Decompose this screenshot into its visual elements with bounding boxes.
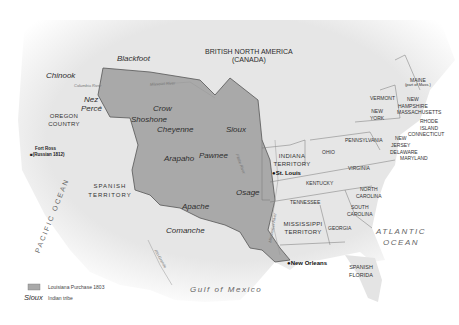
atlantic-line1: ATLANTIC: [376, 228, 426, 236]
label-georgia: GEORGIA: [328, 226, 351, 231]
tribe-crow: Crow: [153, 105, 172, 113]
louisiana-purchase-map: BRITISH NORTH AMERICA (CANADA) OREGON CO…: [0, 0, 459, 325]
city-new-orleans: ●New Orleans: [287, 260, 327, 266]
british-name: BRITISH NORTH AMERICA: [205, 48, 293, 55]
tribe-shoshone: Shoshone: [131, 116, 167, 124]
tribe-arapaho: Arapaho: [164, 155, 194, 163]
label-massachusetts: MASSACHUSETTS: [397, 110, 441, 115]
label-vermont: VERMONT: [370, 96, 395, 101]
british-sub: (CANADA): [205, 56, 293, 63]
tribe-sioux: Sioux: [226, 126, 246, 134]
label-oregon-country: OREGON COUNTRY: [46, 112, 82, 129]
label-gulf-of-mexico: Gulf of Mexico: [190, 286, 262, 294]
city-st-louis: ●St. Louis: [272, 170, 301, 176]
fort-ross-sub: ■(Russian 1812): [30, 153, 64, 158]
label-maryland: MARYLAND: [400, 156, 428, 161]
tribe-nez: Nez: [84, 96, 98, 104]
label-fort-ross: Fort Ross ■(Russian 1812): [30, 147, 64, 157]
label-new-hampshire: NEW HAMPSHIRE: [398, 96, 428, 109]
tribe-pawnee: Pawnee: [199, 152, 228, 160]
tribe-osage: Osage: [236, 189, 260, 197]
legend-tribe-sample: Sioux: [24, 294, 43, 302]
label-spanish-territory: SPANISH TERRITORY: [86, 182, 134, 200]
label-kentucky: KENTUCKY: [306, 181, 333, 186]
label-atlantic-ocean: ATLANTIC OCEAN: [376, 228, 426, 247]
label-rhode-island: RHODE ISLAND: [420, 118, 438, 131]
river-columbia: Columbia River: [74, 84, 101, 88]
tribe-apache: Apache: [182, 203, 209, 211]
label-ohio: OHIO: [322, 150, 335, 155]
atlantic-line2: OCEAN: [376, 239, 426, 247]
label-connecticut: CONNECTICUT: [408, 132, 444, 137]
tribe-cheyenne: Cheyenne: [157, 126, 193, 134]
label-spanish-florida: SPANISH FLORIDA: [346, 264, 376, 279]
legend-purchase-label: Louisiana Purchase 1803: [48, 285, 104, 290]
label-indiana-territory: INDIANA TERRITORY: [272, 152, 312, 169]
label-south-carolina: SOUTH CAROLINA: [347, 204, 373, 217]
label-new-york: NEW YORK: [370, 108, 384, 121]
label-tennessee: TENNESSEE: [290, 200, 320, 205]
legend-swatch-purchase: [28, 284, 40, 290]
tribe-chinook: Chinook: [46, 72, 75, 80]
label-new-jersey: NEW JERSEY: [391, 135, 410, 148]
label-north-carolina: NORTH CAROLINA: [356, 186, 382, 199]
label-virginia: VIRGINIA: [348, 166, 370, 171]
label-pennsylvania: PENNSYLVANIA: [345, 138, 383, 143]
maine-sub: (part of Mass.): [405, 83, 431, 87]
label-mississippi-territory: MISSISSIPPI TERRITORY: [281, 220, 325, 237]
tribe-perce: Percé: [81, 105, 102, 113]
legend-tribe-label: Indian tribe: [48, 296, 73, 301]
label-british-north-america: BRITISH NORTH AMERICA (CANADA): [205, 48, 293, 63]
label-maine: MAINE (part of Mass.): [405, 78, 431, 87]
tribe-comanche: Comanche: [166, 227, 205, 235]
tribe-blackfoot: Blackfoot: [117, 55, 150, 63]
